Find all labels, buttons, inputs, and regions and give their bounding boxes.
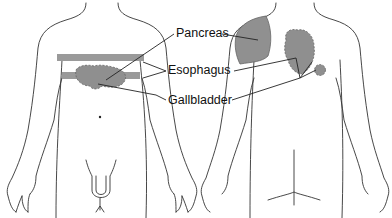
front-body <box>7 3 197 218</box>
gallbladder-region-back <box>315 65 326 76</box>
label-pancreas: Pancreas <box>176 27 229 40</box>
esophagus-region-back <box>285 29 315 74</box>
gallbladder-region-front <box>76 65 126 89</box>
pancreas-band-front <box>57 54 144 61</box>
label-gallbladder: Gallbladder <box>168 94 232 107</box>
pancreas-region-back <box>235 16 271 64</box>
label-esophagus: Esophagus <box>168 64 231 77</box>
referred-pain-diagram: Pancreas Esophagus Gallbladder <box>0 0 392 218</box>
